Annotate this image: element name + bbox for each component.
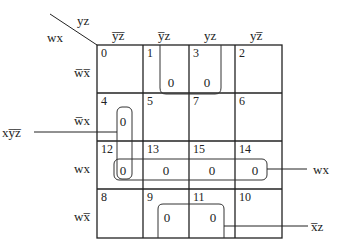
cell-index: 3 — [193, 46, 199, 60]
cell-value: 0 — [120, 114, 127, 129]
cell-value: 0 — [204, 75, 211, 90]
cell-index: 2 — [239, 46, 245, 60]
row-header-2: wx — [74, 161, 90, 176]
col-header-3: yz̅ — [250, 28, 263, 43]
cell-index: 7 — [193, 94, 199, 108]
col-header-1: y̅z — [157, 28, 170, 43]
cell-index: 9 — [147, 190, 153, 204]
cell-value: 0 — [120, 163, 127, 178]
kmap-grid — [97, 45, 282, 238]
cell-value: 0 — [168, 75, 175, 90]
cell-index: 10 — [239, 190, 251, 204]
cell-index: 6 — [239, 94, 245, 108]
row-header-0: w̅x̅ — [74, 65, 91, 80]
cell-index: 13 — [147, 142, 159, 156]
cell-value: 0 — [209, 163, 216, 178]
group-label-wx: wx — [313, 162, 329, 177]
cell-index: 4 — [101, 94, 107, 108]
cell-index: 5 — [147, 94, 153, 108]
cell-value: 0 — [164, 210, 171, 225]
column-variable-label: yz — [77, 13, 90, 28]
group-label-xz: x̅z — [310, 219, 323, 234]
cell-index: 14 — [239, 142, 251, 156]
cell-value: 0 — [252, 163, 259, 178]
cell-index: 1 — [147, 46, 153, 60]
col-header-2: yz — [204, 28, 217, 43]
group-loop-wx — [114, 159, 267, 180]
cell-index: 15 — [193, 142, 205, 156]
row-header-3: wx̅ — [74, 209, 91, 224]
cell-index: 8 — [101, 190, 107, 204]
row-header-1: w̅x — [74, 113, 90, 128]
row-variable-label: wx — [47, 30, 63, 45]
karnaugh-map: yz wx y̅z̅ y̅z yz yz̅ w̅x̅ w̅x wx wx̅ 0 … — [0, 0, 343, 252]
cell-index: 11 — [193, 190, 205, 204]
cell-index: 0 — [101, 46, 107, 60]
col-header-0: y̅z̅ — [111, 28, 125, 43]
cell-value: 0 — [163, 163, 170, 178]
group-label-xyz: xy̅z̅ — [2, 125, 22, 140]
cell-index: 12 — [101, 142, 113, 156]
cell-value: 0 — [210, 210, 217, 225]
